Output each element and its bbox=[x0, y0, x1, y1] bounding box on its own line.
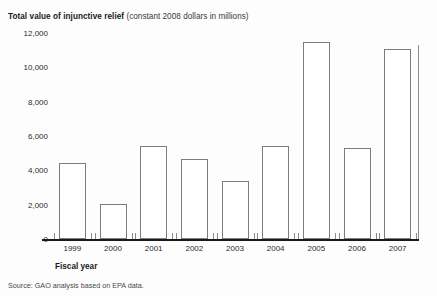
x-axis-tick bbox=[176, 233, 177, 239]
chart-title-subtitle: (constant 2008 dollars in millions) bbox=[126, 12, 248, 21]
x-axis-title: Fiscal year bbox=[55, 262, 97, 271]
x-axis-tick bbox=[257, 233, 258, 239]
plot-area bbox=[52, 33, 418, 239]
plot-right-border bbox=[418, 45, 419, 239]
x-axis-tick-label: 1999 bbox=[63, 244, 81, 253]
y-axis-tick-label: 6,000 bbox=[2, 132, 48, 141]
x-axis-tick bbox=[376, 233, 377, 239]
bar bbox=[100, 204, 127, 239]
x-axis-tick-label: 2000 bbox=[104, 244, 122, 253]
x-axis-tick-label: 2005 bbox=[307, 244, 325, 253]
y-axis-tick-label: 2,000 bbox=[2, 200, 48, 209]
x-axis: 199920002001200220032004200520062007 bbox=[52, 244, 418, 258]
x-axis-tick bbox=[339, 233, 340, 239]
x-axis-tick-label: 2007 bbox=[389, 244, 407, 253]
x-axis-tick bbox=[335, 233, 336, 239]
chart-title-main: Total value of injunctive relief bbox=[8, 12, 124, 21]
x-axis-tick-label: 2003 bbox=[226, 244, 244, 253]
source-note: Source: GAO analysis based on EPA data. bbox=[8, 281, 144, 290]
bar bbox=[262, 146, 289, 239]
x-axis-tick-label: 2002 bbox=[185, 244, 203, 253]
bar bbox=[181, 159, 208, 239]
bar bbox=[384, 49, 411, 239]
x-axis-tick bbox=[132, 233, 133, 239]
bar bbox=[140, 146, 167, 239]
bar bbox=[303, 42, 330, 239]
chart-figure: Total value of injunctive relief (consta… bbox=[0, 0, 437, 296]
x-axis-tick-label: 2006 bbox=[348, 244, 366, 253]
x-axis-tick bbox=[416, 233, 417, 239]
x-axis-tick bbox=[298, 233, 299, 239]
x-axis-tick bbox=[294, 233, 295, 239]
x-axis-tick-label: 2004 bbox=[267, 244, 285, 253]
bar bbox=[59, 163, 86, 239]
x-axis-tick bbox=[172, 233, 173, 239]
x-axis-tick-label: 2001 bbox=[145, 244, 163, 253]
x-axis-tick bbox=[213, 233, 214, 239]
y-axis-tick-label: 10,000 bbox=[2, 63, 48, 72]
y-axis: 02,0004,0006,0008,00010,00012,000 bbox=[0, 33, 48, 239]
x-axis-tick bbox=[217, 233, 218, 239]
bar bbox=[222, 181, 249, 239]
x-axis-tick bbox=[54, 233, 55, 239]
x-axis-tick bbox=[254, 233, 255, 239]
bar bbox=[344, 148, 371, 239]
x-axis-tick bbox=[91, 233, 92, 239]
x-axis-tick bbox=[135, 233, 136, 239]
y-axis-tick-label: 4,000 bbox=[2, 166, 48, 175]
x-axis-tick bbox=[95, 233, 96, 239]
chart-title: Total value of injunctive relief (consta… bbox=[8, 12, 249, 22]
x-axis-tick bbox=[379, 233, 380, 239]
y-axis-tick-label: 12,000 bbox=[2, 29, 48, 38]
y-axis-tick-label: 8,000 bbox=[2, 97, 48, 106]
x-axis-baseline bbox=[42, 239, 419, 241]
